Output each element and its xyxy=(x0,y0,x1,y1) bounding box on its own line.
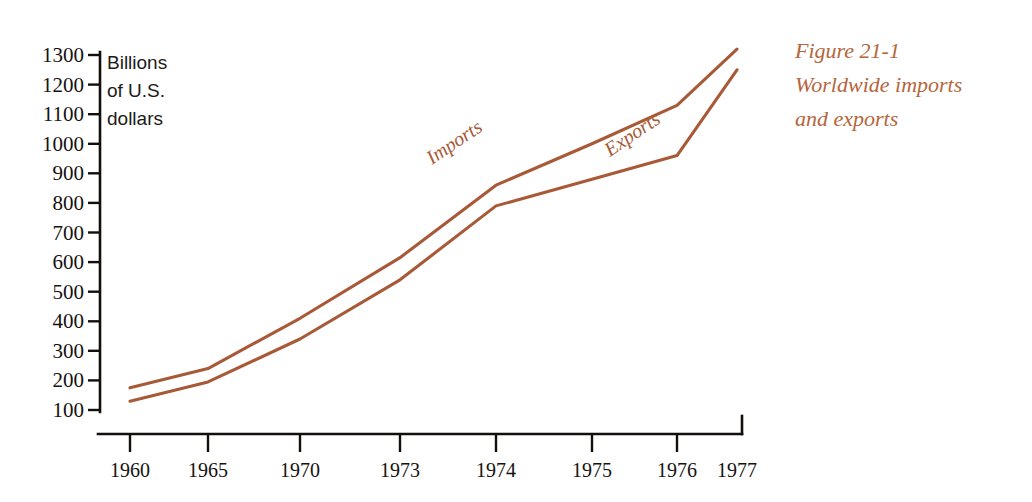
x-tick-label: 1970 xyxy=(280,459,320,481)
y-tick-label: 500 xyxy=(53,280,85,304)
x-tick-label: 1974 xyxy=(476,459,516,481)
y-tick-label: 1200 xyxy=(42,73,84,97)
y-tick-label: 800 xyxy=(53,191,85,215)
x-axis-tick-labels: 1960 1965 1970 1973 1974 1975 1976 1977 xyxy=(110,459,757,481)
y-axis-title: Billions of U.S. dollars xyxy=(107,52,167,129)
figure-canvas: 1300 1200 1100 1000 900 800 700 600 500 … xyxy=(0,0,1032,502)
caption-line-2: Worldwide imports xyxy=(795,72,962,97)
y-axis-title-line-1: Billions xyxy=(107,52,167,73)
series-imports xyxy=(130,49,737,388)
y-tick-label: 1300 xyxy=(42,43,84,67)
imports-line xyxy=(130,49,737,388)
x-tick-label: 1973 xyxy=(380,459,420,481)
x-tick-label: 1975 xyxy=(572,459,612,481)
y-tick-label: 1100 xyxy=(43,102,84,126)
series-label-imports: Imports xyxy=(421,115,486,170)
caption-line-3: and exports xyxy=(795,106,898,131)
y-tick-label: 300 xyxy=(53,339,85,363)
x-axis: 1960 1965 1970 1973 1974 1975 1976 1977 xyxy=(98,416,757,481)
y-tick-label: 100 xyxy=(53,398,85,422)
y-tick-label: 1000 xyxy=(42,132,84,156)
y-tick-label: 900 xyxy=(53,161,85,185)
x-tick-label: 1965 xyxy=(188,459,228,481)
y-tick-label: 200 xyxy=(53,368,85,392)
y-tick-label: 700 xyxy=(53,221,85,245)
y-tick-label: 600 xyxy=(53,250,85,274)
line-chart: 1300 1200 1100 1000 900 800 700 600 500 … xyxy=(0,0,1032,502)
x-tick-label: 1976 xyxy=(657,459,697,481)
y-axis-title-line-3: dollars xyxy=(107,108,163,129)
x-tick-label: 1977 xyxy=(717,459,757,481)
y-tick-label: 400 xyxy=(53,309,85,333)
figure-caption: Figure 21-1 Worldwide imports and export… xyxy=(794,38,962,131)
x-tick-label: 1960 xyxy=(110,459,150,481)
y-axis-ticks xyxy=(88,55,100,410)
y-axis: 1300 1200 1100 1000 900 800 700 600 500 … xyxy=(42,43,100,422)
caption-line-1: Figure 21-1 xyxy=(794,38,900,63)
y-axis-tick-labels: 1300 1200 1100 1000 900 800 700 600 500 … xyxy=(42,43,84,422)
x-axis-ticks xyxy=(130,434,677,452)
y-axis-title-line-2: of U.S. xyxy=(107,80,165,101)
